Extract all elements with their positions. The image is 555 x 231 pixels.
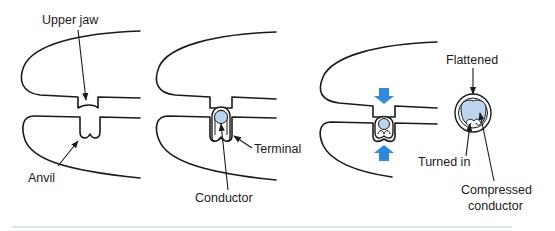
anvil-label: Anvil <box>28 171 55 185</box>
compressed-label-line2: conductor <box>468 199 523 213</box>
crimp-cross-section <box>455 94 491 132</box>
panel-terminal-inserted: Terminal Conductor <box>156 32 301 205</box>
terminal-label: Terminal <box>254 142 301 156</box>
flattened-label: Flattened <box>446 53 498 67</box>
compressed-label-line1: Compressed <box>461 183 532 197</box>
conductor-label: Conductor <box>195 191 253 205</box>
panel-crimping: Flattened Turned in Compressed conductor <box>320 42 532 213</box>
panel-open-die: Upper jaw Anvil <box>21 13 140 185</box>
turned-in-label: Turned in <box>418 155 470 169</box>
terminal-leader <box>234 136 252 148</box>
compressed-conductor <box>461 100 486 123</box>
crimping-diagram: Upper jaw Anvil Terminal Conductor <box>0 0 555 231</box>
down-force-arrow-icon <box>374 88 394 104</box>
anvil-leader <box>58 141 78 166</box>
upper-jaw-outline <box>156 32 276 108</box>
upper-jaw-leader <box>78 30 86 100</box>
upper-jaw-outline <box>320 42 437 117</box>
conductor <box>215 111 228 124</box>
conductor <box>379 119 390 130</box>
up-force-arrow-icon <box>374 145 394 161</box>
upper-jaw-label: Upper jaw <box>42 13 99 27</box>
upper-jaw-outline <box>21 31 140 108</box>
anvil-outline <box>23 116 140 178</box>
